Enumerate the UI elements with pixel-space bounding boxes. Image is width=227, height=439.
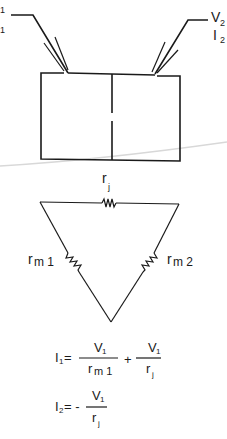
- resistor-rm2-icon: [142, 253, 157, 272]
- eq1-plus: +: [124, 352, 132, 367]
- resistor-rj-icon: [102, 199, 116, 207]
- rm2-subscript: m 2: [173, 255, 193, 269]
- eq2-num-sub: 1: [100, 395, 105, 404]
- right-voltage-subscript: 2: [220, 18, 225, 28]
- left-voltage-subscript: 1: [0, 5, 5, 15]
- rm1-label: r: [28, 251, 33, 267]
- rj-label: r: [102, 170, 107, 186]
- eq2-equals: = -: [64, 399, 80, 414]
- delta-network: [40, 199, 179, 322]
- top-wire-right: [116, 203, 179, 204]
- left-current-subscript: 1: [0, 25, 5, 35]
- left-wire-bottom: [79, 272, 111, 322]
- top-wire-left: [40, 202, 102, 203]
- right-current-label: I: [213, 27, 217, 43]
- equation-i2: I 2 = - V 1 r j: [55, 388, 107, 428]
- rm2-label: r: [167, 251, 172, 267]
- page-fold-line: [0, 142, 227, 166]
- right-terminal-lead: [152, 20, 208, 74]
- device-block: [41, 73, 180, 161]
- eq1-term2-den-sub: j: [151, 370, 154, 379]
- eq1-term2-den: r: [146, 361, 151, 376]
- eq1-equals: =: [64, 350, 72, 365]
- eq2-den-sub: j: [97, 419, 100, 428]
- right-wire-bottom: [111, 272, 143, 322]
- block-outline: [41, 73, 180, 161]
- rj-subscript: j: [107, 182, 110, 192]
- eq1-term1-den-sub: m 1: [94, 365, 112, 377]
- eq1-term1-num-sub: 1: [102, 347, 107, 356]
- left-arrow-line-1: [44, 43, 64, 71]
- rm1-subscript: m 1: [34, 255, 54, 269]
- circuit-diagram: 1 1 V 2 I 2 r j r m 1 r m 2 I: [0, 0, 227, 439]
- equation-i1: I 1 = V 1 r m 1 + V 1 r j: [55, 340, 161, 379]
- resistor-rm1-icon: [66, 253, 81, 272]
- eq1-term1-den: r: [88, 361, 93, 376]
- left-wire-top: [40, 202, 68, 253]
- eq2-den: r: [92, 410, 97, 425]
- left-terminal-lead: [11, 15, 68, 73]
- eq1-term2-num-sub: 1: [156, 347, 161, 356]
- right-wire-top: [154, 204, 179, 253]
- right-current-subscript: 2: [220, 35, 225, 45]
